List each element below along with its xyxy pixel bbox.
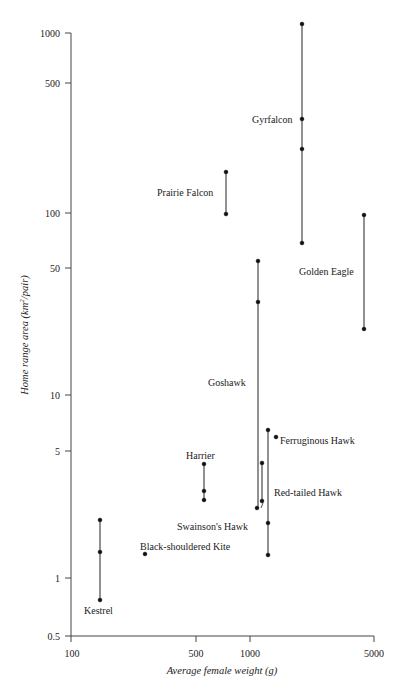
x-tick-labels: 100 500 1000 5000 xyxy=(65,648,385,659)
svg-text:1000: 1000 xyxy=(40,28,60,39)
y-axis xyxy=(65,33,71,636)
svg-text:100: 100 xyxy=(45,208,60,219)
label-gyrfalcon: Gyrfalcon xyxy=(252,114,293,125)
svg-text:1: 1 xyxy=(55,573,60,584)
svg-text:0.5: 0.5 xyxy=(48,631,61,642)
chart: 1000 500 100 50 10 5 1 0.5 100 500 1000 … xyxy=(0,0,397,691)
label-redtailed: Red-tailed Hawk xyxy=(274,487,342,498)
label-kite: Black-shouldered Kite xyxy=(140,541,231,552)
x-axis xyxy=(65,636,374,642)
label-harrier: Harrier xyxy=(186,450,216,461)
label-ferruginous: Ferruginous Hawk xyxy=(280,435,355,446)
label-kestrel: Kestrel xyxy=(84,605,113,616)
svg-text:1000: 1000 xyxy=(240,648,260,659)
y-axis-label: Home range area (km2/pair) xyxy=(18,275,31,396)
svg-text:5: 5 xyxy=(55,446,60,457)
svg-text:100: 100 xyxy=(65,648,80,659)
svg-text:5000: 5000 xyxy=(364,648,384,659)
label-swainson: Swainson's Hawk xyxy=(177,521,248,532)
svg-text:500: 500 xyxy=(45,78,60,89)
svg-text:500: 500 xyxy=(189,648,204,659)
data-series xyxy=(98,22,366,602)
label-prairie: Prairie Falcon xyxy=(157,187,213,198)
series-labels: Kestrel Black-shouldered Kite Harrier Pr… xyxy=(84,114,355,616)
svg-text:50: 50 xyxy=(50,263,60,274)
label-golden: Golden Eagle xyxy=(299,266,354,277)
label-goshawk: Goshawk xyxy=(208,377,246,388)
svg-text:10: 10 xyxy=(50,390,60,401)
x-axis-label: Average female weight (g) xyxy=(166,665,278,677)
y-tick-labels: 1000 500 100 50 10 5 1 0.5 xyxy=(40,28,60,642)
